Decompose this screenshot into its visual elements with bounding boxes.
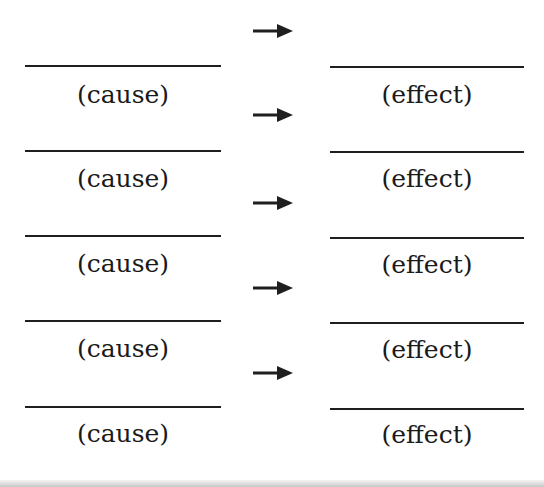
cause-label: (cause) bbox=[25, 164, 221, 194]
cause-label: (cause) bbox=[25, 80, 221, 110]
effect-blank-line[interactable] bbox=[330, 66, 524, 68]
cause-blank-line[interactable] bbox=[25, 406, 221, 408]
arrow-right-icon bbox=[253, 108, 293, 122]
effect-label: (effect) bbox=[330, 335, 524, 365]
cause-blank-line[interactable] bbox=[25, 65, 221, 67]
arrow-right-icon bbox=[253, 24, 293, 38]
cause-blank-line[interactable] bbox=[25, 150, 221, 152]
effect-label: (effect) bbox=[330, 420, 524, 450]
cause-blank-line[interactable] bbox=[25, 320, 221, 322]
cause-label: (cause) bbox=[25, 249, 221, 279]
cause-label: (cause) bbox=[25, 334, 221, 364]
effect-blank-line[interactable] bbox=[330, 237, 524, 239]
arrow-right-icon bbox=[253, 281, 293, 295]
arrow-right-icon bbox=[253, 366, 293, 380]
effect-label: (effect) bbox=[330, 164, 524, 194]
arrow-right-icon bbox=[253, 196, 293, 210]
effect-label: (effect) bbox=[330, 250, 524, 280]
cause-blank-line[interactable] bbox=[25, 235, 221, 237]
effect-blank-line[interactable] bbox=[330, 151, 524, 153]
effect-blank-line[interactable] bbox=[330, 408, 524, 410]
effect-blank-line[interactable] bbox=[330, 322, 524, 324]
page-edge-divider bbox=[0, 480, 544, 487]
effect-label: (effect) bbox=[330, 80, 524, 110]
cause-label: (cause) bbox=[25, 419, 221, 449]
